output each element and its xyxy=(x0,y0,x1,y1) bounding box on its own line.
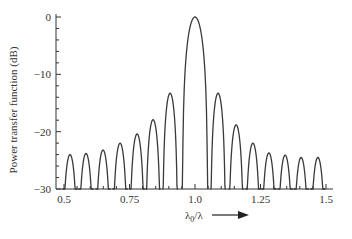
x-axis-arrow-icon xyxy=(212,211,249,219)
x-tick-label: 1.5 xyxy=(319,193,333,205)
sidelobe xyxy=(95,150,110,189)
sidelobe xyxy=(229,125,244,189)
power-transfer-chart: 0−10−20−300.50.751.01.251.5 Power transf… xyxy=(0,0,352,239)
x-tick-label: 0.5 xyxy=(57,193,71,205)
main-lobe xyxy=(182,17,207,189)
data-curve xyxy=(62,17,325,189)
y-tick-label: 0 xyxy=(46,11,52,23)
y-tick-label: −20 xyxy=(34,126,52,138)
sidelobe xyxy=(294,157,309,189)
sidelobe xyxy=(62,155,77,189)
sidelobe xyxy=(130,134,145,189)
y-tick-label: −10 xyxy=(34,68,52,80)
x-tick-label: 0.75 xyxy=(120,193,140,205)
sidelobe xyxy=(261,153,276,189)
y-tick-label: −30 xyxy=(34,183,52,195)
sidelobe xyxy=(78,153,93,189)
sidelobe xyxy=(163,93,178,189)
sidelobe xyxy=(145,120,160,189)
sidelobe xyxy=(112,143,127,189)
x-tick-label: 1.0 xyxy=(188,193,202,205)
x-axis-title: λ0/λ xyxy=(185,209,203,224)
sidelobe xyxy=(245,143,260,189)
sidelobe xyxy=(210,93,225,189)
sidelobe xyxy=(278,155,293,189)
y-axis-title: Power transfer function (dB) xyxy=(7,46,20,173)
sidelobe xyxy=(310,157,325,189)
x-tick-label: 1.25 xyxy=(251,193,271,205)
